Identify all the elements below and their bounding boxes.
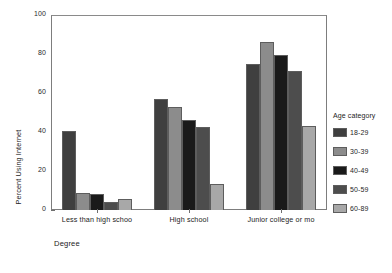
bar bbox=[210, 184, 224, 210]
x-axis-tick-mark bbox=[189, 209, 190, 213]
legend-swatch bbox=[333, 147, 347, 156]
bar bbox=[246, 64, 260, 210]
bar bbox=[288, 71, 302, 210]
legend-entry: 50-59 bbox=[333, 184, 391, 194]
bar bbox=[274, 55, 288, 210]
bar-chart: Percent Using Internet 020406080100 Less… bbox=[0, 0, 392, 273]
legend-label: 50-59 bbox=[350, 186, 368, 193]
legend-swatch bbox=[333, 166, 347, 175]
legend-entry: 18-29 bbox=[333, 127, 391, 137]
bar bbox=[168, 107, 182, 210]
y-axis-tick-label: 20 bbox=[38, 166, 46, 173]
bar bbox=[62, 131, 76, 210]
y-axis-tick-mark bbox=[51, 210, 55, 211]
y-axis-tick-label: 100 bbox=[34, 10, 46, 17]
legend-label: 60-89 bbox=[350, 205, 368, 212]
y-axis-title: Percent Using Internet bbox=[13, 112, 25, 222]
x-axis-tick-mark bbox=[281, 209, 282, 213]
legend-label: 40-49 bbox=[350, 167, 368, 174]
bar bbox=[260, 42, 274, 210]
legend-swatch bbox=[333, 204, 347, 213]
x-axis-tick-mark bbox=[97, 209, 98, 213]
legend-entry: 40-49 bbox=[333, 165, 391, 175]
bar bbox=[90, 194, 104, 210]
y-axis-tick-label: 80 bbox=[38, 49, 46, 56]
bar bbox=[182, 120, 196, 210]
legend-entry: 60-89 bbox=[333, 203, 391, 213]
bar bbox=[118, 199, 132, 210]
legend-label: 18-29 bbox=[350, 129, 368, 136]
bar bbox=[104, 202, 118, 210]
legend-entries: 18-2930-3940-4950-5960-89 bbox=[333, 127, 391, 213]
x-axis-tick-label: Junior college or mo bbox=[211, 215, 351, 224]
legend-swatch bbox=[333, 185, 347, 194]
bar bbox=[154, 99, 168, 210]
legend-entry: 30-39 bbox=[333, 146, 391, 156]
bar bbox=[302, 126, 316, 210]
bar bbox=[76, 193, 90, 210]
bars-layer bbox=[51, 15, 327, 210]
y-axis-tick-label: 60 bbox=[38, 88, 46, 95]
legend-title: Age category bbox=[333, 112, 391, 119]
legend-label: 30-39 bbox=[350, 148, 368, 155]
y-axis-tick-label: 40 bbox=[38, 127, 46, 134]
legend: Age category 18-2930-3940-4950-5960-89 bbox=[333, 112, 391, 222]
x-axis-title: Degree bbox=[54, 239, 80, 248]
bar bbox=[196, 127, 210, 210]
legend-swatch bbox=[333, 128, 347, 137]
y-axis-tick-label: 0 bbox=[42, 205, 46, 212]
